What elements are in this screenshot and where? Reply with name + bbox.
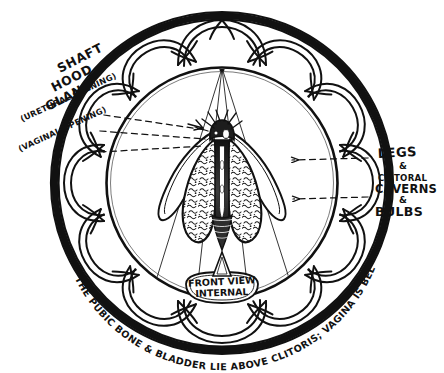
label-caverns: CAVERNS [375,182,437,196]
anatomy-illustration: FRONT VIEW INTERNAL SHAFT HOOD GLANS (UR… [0,0,444,373]
label-ampersand-1: & [399,161,407,171]
label-legs: LEGS [377,144,417,161]
banner-line-2: INTERNAL [195,286,248,299]
label-bulbs: BULBS [375,204,423,219]
diagram-canvas: FRONT VIEW INTERNAL SHAFT HOOD GLANS (UR… [0,0,444,373]
